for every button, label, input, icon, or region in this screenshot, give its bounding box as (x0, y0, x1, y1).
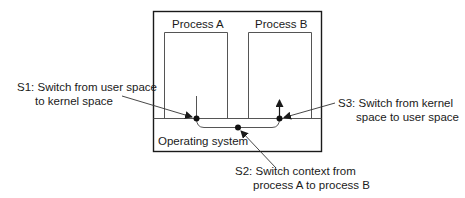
s1-dot (194, 116, 200, 122)
s3-label-line1: S3: Switch from kernel (338, 96, 453, 110)
s3-pointer-arrow (284, 103, 335, 118)
s3-dot (277, 116, 283, 122)
s1-label-line2: to kernel space (35, 94, 113, 108)
process-a-label: Process A (172, 17, 224, 31)
os-label: Operating system (158, 134, 248, 148)
process-b-label: Process B (255, 17, 307, 31)
s1-label-line1: S1: Switch from user space (17, 80, 157, 94)
s2-label-line2: process A to process B (253, 178, 370, 192)
execution-path (197, 96, 280, 128)
s2-label-line1: S2: Switch context from (235, 164, 356, 178)
s2-dot (235, 125, 241, 131)
s3-label-line2: space to user space (356, 110, 459, 124)
s1-pointer-arrow (122, 96, 192, 117)
